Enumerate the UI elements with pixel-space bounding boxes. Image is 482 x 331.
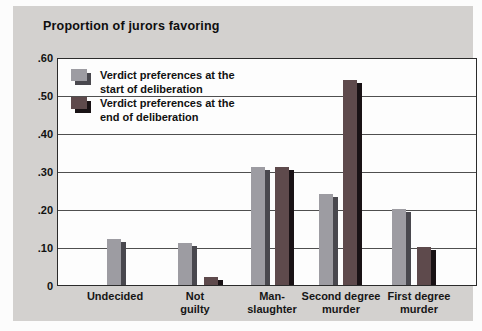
bar-face xyxy=(392,209,406,285)
legend-entry-end: Verdict preferences at theend of deliber… xyxy=(71,96,235,124)
bar-shadow xyxy=(218,280,223,285)
bar-face xyxy=(275,167,289,285)
bar-shadow xyxy=(192,246,197,285)
bar-second-degree-murder-end xyxy=(343,80,362,285)
bar-face xyxy=(417,247,431,285)
ytick-label-10: .10 xyxy=(29,241,53,255)
legend-label: Verdict preferences at thestart of delib… xyxy=(100,68,235,96)
legend-swatch-icon xyxy=(71,97,93,115)
bar-face xyxy=(204,277,218,285)
chart-title: Proportion of jurors favoring xyxy=(43,19,220,33)
ytick-label-40: .40 xyxy=(29,127,53,141)
bar-face xyxy=(343,80,357,285)
bar-second-degree-murder-start xyxy=(319,194,338,285)
legend-swatch-face xyxy=(71,97,87,109)
gridline-0.40 xyxy=(58,134,476,135)
bar-shadow xyxy=(289,170,294,285)
bar-shadow xyxy=(431,250,436,285)
bar-face xyxy=(107,239,121,285)
bar-shadow xyxy=(121,242,126,285)
ytick-label-30: .30 xyxy=(29,165,53,179)
bar-face xyxy=(319,194,333,285)
ytick-label-60: .60 xyxy=(29,51,53,65)
legend-swatch-face xyxy=(71,69,87,81)
bar-not-guilty-start xyxy=(178,243,197,285)
bar-first-degree-murder-end xyxy=(417,247,436,285)
bar-shadow xyxy=(357,83,362,285)
bar-first-degree-murder-start xyxy=(392,209,411,285)
bar-shadow xyxy=(406,212,411,285)
category-label-first-degree-murder: First degreemurder xyxy=(364,290,474,316)
legend-label: Verdict preferences at theend of deliber… xyxy=(100,96,235,124)
bar-manslaughter-start xyxy=(251,167,270,285)
legend-swatch-icon xyxy=(71,69,93,87)
bar-not-guilty-end xyxy=(204,277,223,285)
chart-panel: Proportion of jurors favoring Verdict pr… xyxy=(13,6,473,321)
bar-shadow xyxy=(333,197,338,285)
juror-bar-chart-figure: Proportion of jurors favoring Verdict pr… xyxy=(0,0,482,331)
bar-undecided-start xyxy=(107,239,126,285)
ytick-label-50: .50 xyxy=(29,89,53,103)
ytick-label-20: .20 xyxy=(29,203,53,217)
bar-manslaughter-end xyxy=(275,167,294,285)
legend-entry-start: Verdict preferences at thestart of delib… xyxy=(71,68,235,96)
bar-face xyxy=(251,167,265,285)
ytick-label-0: 0 xyxy=(29,279,53,293)
bar-face xyxy=(178,243,192,285)
bar-shadow xyxy=(265,170,270,285)
